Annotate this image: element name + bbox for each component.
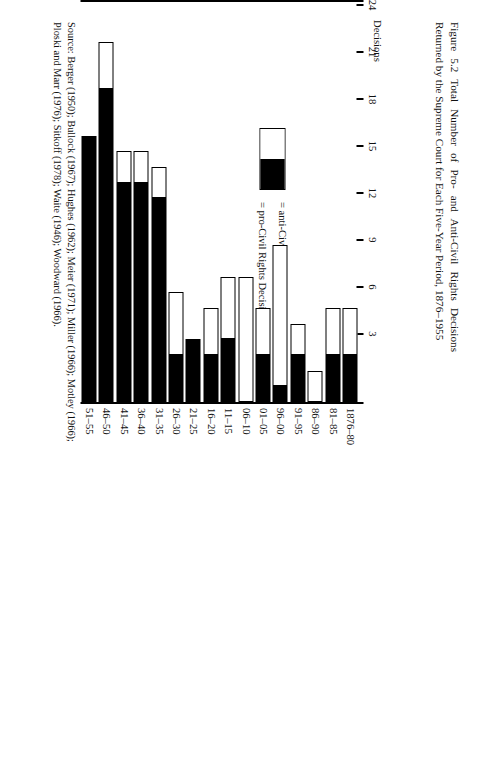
value-axis-label: 15	[366, 136, 377, 156]
bar-segment-anti[interactable]	[255, 308, 270, 355]
bar-segment-pro[interactable]	[168, 355, 183, 402]
category-label: 21–25	[187, 408, 198, 434]
category-label: 1876–80	[344, 408, 355, 445]
value-axis-label: 12	[366, 183, 377, 203]
category-label: 11–15	[222, 408, 233, 434]
bar-segment-pro[interactable]	[116, 183, 131, 402]
category-label: 16–20	[205, 408, 216, 434]
category-label: 36–40	[135, 408, 146, 434]
value-axis-label: 21	[366, 42, 377, 62]
bar-row[interactable]	[185, 0, 200, 762]
bar-row[interactable]	[255, 0, 270, 762]
bar-segment-anti[interactable]	[203, 308, 218, 355]
bar-segment-anti[interactable]	[325, 308, 340, 355]
figure-source: Source: Berger (1950); Bullock (1967); H…	[49, 22, 77, 452]
bar-segment-pro[interactable]	[133, 183, 148, 402]
category-label: 81–85	[327, 408, 338, 434]
bar-segment-pro[interactable]	[203, 355, 218, 402]
category-label: 91–95	[292, 408, 303, 434]
bar-segment-anti[interactable]	[307, 371, 322, 402]
category-label: 96–00	[274, 408, 285, 434]
bar-row[interactable]	[98, 0, 113, 762]
bar-segment-pro[interactable]	[342, 355, 357, 402]
bar-segment-anti[interactable]	[116, 151, 131, 182]
bar-row[interactable]	[290, 0, 305, 762]
bar-row[interactable]	[168, 0, 183, 762]
value-axis-label: 24	[366, 0, 377, 15]
bar-row[interactable]	[307, 0, 322, 762]
category-label: 31–35	[153, 408, 164, 434]
bar-row[interactable]	[133, 0, 148, 762]
bar-row[interactable]	[151, 0, 166, 762]
bar-segment-anti[interactable]	[238, 277, 253, 402]
bar-row[interactable]	[238, 0, 253, 762]
category-label: 06–10	[240, 408, 251, 434]
bar-segment-pro[interactable]	[185, 339, 200, 402]
bar-segment-pro[interactable]	[98, 89, 113, 402]
bar-segment-anti[interactable]	[272, 245, 287, 386]
bar-segment-anti[interactable]	[151, 167, 166, 198]
bar-segment-pro[interactable]	[325, 355, 340, 402]
bar-segment-anti[interactable]	[290, 324, 305, 355]
category-label: 01–05	[257, 408, 268, 434]
value-axis-label: 18	[366, 89, 377, 109]
bar-segment-anti[interactable]	[98, 42, 113, 89]
category-label: 46–50	[100, 408, 111, 434]
bar-segment-anti[interactable]	[133, 151, 148, 182]
bar-row[interactable]	[203, 0, 218, 762]
category-label: 51–55	[83, 408, 94, 434]
value-axis-label: 6	[366, 277, 377, 297]
value-axis-label: 9	[366, 230, 377, 250]
bar-row[interactable]	[220, 0, 235, 762]
bar-segment-pro[interactable]	[255, 355, 270, 402]
category-label: 26–30	[170, 408, 181, 434]
category-label: 41–45	[118, 408, 129, 434]
bar-segment-anti[interactable]	[168, 292, 183, 355]
bar-segment-anti[interactable]	[342, 308, 357, 355]
category-label: 86–90	[309, 408, 320, 434]
bar-segment-anti[interactable]	[220, 277, 235, 340]
value-axis-label: 3	[366, 324, 377, 344]
bar-segment-pro[interactable]	[290, 355, 305, 402]
bar-segment-pro[interactable]	[220, 339, 235, 402]
bar-row[interactable]	[116, 0, 131, 762]
bar-segment-pro[interactable]	[272, 386, 287, 402]
bar-row[interactable]	[342, 0, 357, 762]
bar-segment-pro[interactable]	[151, 198, 166, 402]
bar-row[interactable]	[81, 0, 96, 762]
figure-canvas: Figure 5.2 Total Number of Pro- and Anti…	[0, 0, 481, 762]
figure-caption: Figure 5.2 Total Number of Pro- and Anti…	[431, 22, 461, 352]
bar-row[interactable]	[272, 0, 287, 762]
bar-segment-pro[interactable]	[81, 136, 96, 402]
bar-row[interactable]	[325, 0, 340, 762]
